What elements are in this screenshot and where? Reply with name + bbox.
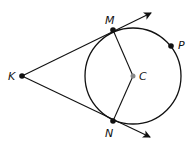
point-p [168, 43, 174, 49]
radius-cm [113, 30, 133, 76]
geometry-diagram: K M N C P [0, 0, 196, 147]
label-c: C [139, 70, 147, 83]
label-p: P [178, 39, 185, 52]
radius-cn [113, 76, 133, 121]
label-n: N [105, 127, 113, 140]
point-n [110, 118, 116, 124]
point-m [110, 27, 116, 33]
point-c [131, 74, 136, 79]
point-k [19, 73, 25, 79]
label-k: K [8, 70, 16, 83]
label-m: M [105, 14, 115, 27]
